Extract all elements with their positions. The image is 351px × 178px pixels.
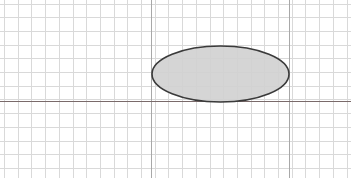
ellipse-shape[interactable]: [152, 46, 289, 102]
graph-canvas: [0, 0, 351, 178]
